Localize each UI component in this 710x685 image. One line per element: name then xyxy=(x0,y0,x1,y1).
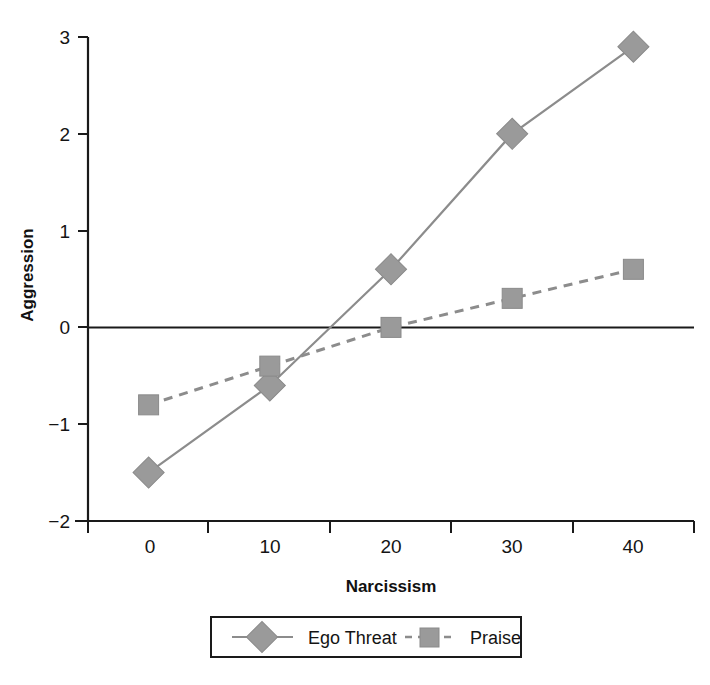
legend-label-praise: Praise xyxy=(470,628,521,648)
x-tick-label-30: 30 xyxy=(501,536,522,557)
legend-square-icon xyxy=(420,628,439,647)
y-tick-label-3: 3 xyxy=(59,27,70,48)
data-point-praise-0 xyxy=(139,395,159,415)
y-tick-label-neg1: −1 xyxy=(48,414,70,435)
y-tick-label-2: 2 xyxy=(59,124,70,145)
data-point-praise-10 xyxy=(260,356,280,376)
chart-figure: 3 2 1 0 −1 −2 0 10 20 30 40 Aggression N… xyxy=(0,0,710,685)
data-point-praise-30 xyxy=(502,288,522,308)
data-point-praise-20 xyxy=(381,317,401,337)
x-tick-label-0: 0 xyxy=(145,536,156,557)
chart-legend: Ego Threat Praise xyxy=(211,617,521,657)
y-tick-label-neg2: −2 xyxy=(48,511,70,532)
x-axis-title: Narcissism xyxy=(346,577,437,596)
x-tick-label-10: 10 xyxy=(259,536,280,557)
legend-label-ego-threat: Ego Threat xyxy=(308,628,397,648)
y-tick-label-1: 1 xyxy=(59,221,70,242)
y-axis-title: Aggression xyxy=(18,228,37,322)
y-tick-label-0: 0 xyxy=(59,317,70,338)
x-tick-label-20: 20 xyxy=(380,536,401,557)
x-tick-label-40: 40 xyxy=(622,536,643,557)
line-chart: 3 2 1 0 −1 −2 0 10 20 30 40 Aggression N… xyxy=(0,0,710,685)
data-point-praise-40 xyxy=(623,259,643,279)
